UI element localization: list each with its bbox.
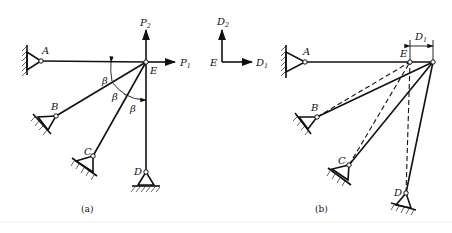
support-b [31, 114, 56, 135]
label-e: E [149, 65, 158, 76]
dimension-d1: D1 [410, 31, 433, 60]
label-a-b: A [302, 46, 310, 57]
panel-b: D1 A B C D E (b) [281, 31, 435, 215]
label-beta-3: β [129, 103, 136, 114]
axis-origin-label: E [209, 57, 218, 68]
label-beta-1: β [101, 75, 108, 86]
support-b-b [293, 113, 317, 135]
label-c-b: C [338, 155, 346, 166]
label-p1: P1 [179, 57, 191, 70]
support-a [22, 45, 41, 76]
caption-a: (a) [81, 204, 93, 214]
label-d-b: D [393, 187, 402, 198]
label-b: B [50, 101, 58, 112]
label-beta-2: β [111, 91, 118, 102]
support-c [71, 156, 97, 180]
member-ce [93, 62, 146, 156]
support-c-b [327, 165, 351, 186]
panel-a: A B C D E P1 P2 β β β (a) [22, 17, 191, 214]
member-ae [41, 61, 146, 62]
displacement-axes: E D2 D1 [209, 16, 268, 70]
label-a: A [41, 45, 49, 56]
truss-displacement-figure: A B C D E P1 P2 β β β (a) E D2 D1 [0, 0, 452, 233]
label-c: C [84, 146, 92, 157]
label-d: D [133, 166, 142, 177]
caption-b: (b) [315, 204, 328, 214]
axis-y-label: D2 [216, 16, 229, 29]
label-b-b: B [310, 102, 318, 113]
label-e-b: E [399, 48, 408, 59]
svg-text:D1: D1 [414, 31, 427, 44]
label-p2: P2 [139, 17, 151, 30]
axis-x-label: D1 [255, 57, 268, 70]
support-a-b [281, 45, 305, 78]
